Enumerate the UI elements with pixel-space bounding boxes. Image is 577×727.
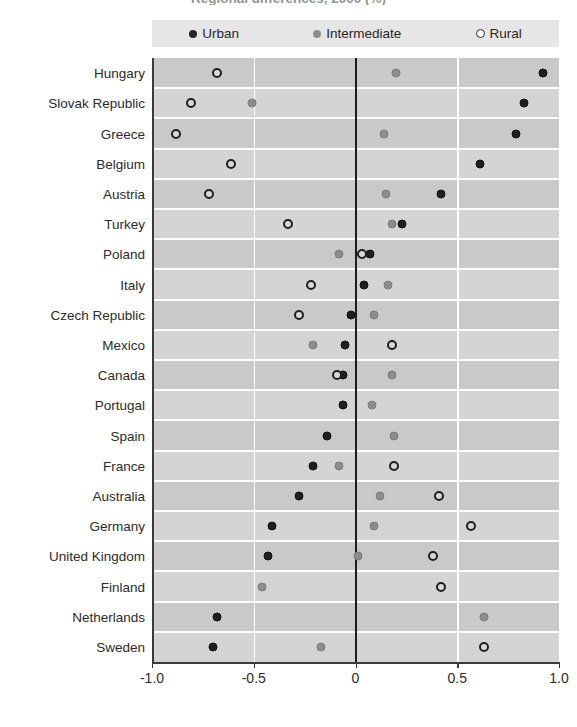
data-point-urban <box>294 491 303 500</box>
y-axis-label-united-kingdom: United Kingdom <box>0 549 145 564</box>
x-axis-tick-mark <box>457 662 458 668</box>
y-axis-label-hungary: Hungary <box>0 66 145 81</box>
data-point-intermediate <box>384 280 393 289</box>
data-point-rural <box>357 249 367 259</box>
y-axis-category-labels: HungarySlovak RepublicGreeceBelgiumAustr… <box>0 58 145 662</box>
data-point-rural <box>226 159 236 169</box>
data-point-rural <box>294 310 304 320</box>
x-axis-tick-label: 0.5 <box>448 670 467 686</box>
data-point-rural <box>332 370 342 380</box>
data-point-rural <box>212 68 222 78</box>
y-axis-label-netherlands: Netherlands <box>0 609 145 624</box>
plot-vertical-gridline <box>254 58 256 662</box>
scatter-plot-area <box>152 58 559 662</box>
data-point-rural <box>306 280 316 290</box>
y-axis-label-spain: Spain <box>0 428 145 443</box>
data-point-urban <box>520 99 529 108</box>
data-point-intermediate <box>335 250 344 259</box>
data-point-rural <box>186 98 196 108</box>
data-point-urban <box>213 612 222 621</box>
y-axis-label-germany: Germany <box>0 519 145 534</box>
y-axis-label-portugal: Portugal <box>0 398 145 413</box>
y-axis-label-czech-republic: Czech Republic <box>0 307 145 322</box>
data-point-rural <box>479 642 489 652</box>
legend-item-urban[interactable]: Urban <box>189 27 239 41</box>
data-point-urban <box>347 310 356 319</box>
data-point-intermediate <box>382 189 391 198</box>
data-point-rural <box>204 189 214 199</box>
x-axis-tick-label: 1.0 <box>549 670 568 686</box>
data-point-urban <box>308 461 317 470</box>
data-point-urban <box>359 280 368 289</box>
chart-legend: Urban Intermediate Rural <box>152 20 559 47</box>
data-point-intermediate <box>375 491 384 500</box>
y-axis-label-poland: Poland <box>0 247 145 262</box>
y-axis-label-belgium: Belgium <box>0 156 145 171</box>
y-axis-label-france: France <box>0 458 145 473</box>
data-point-rural <box>389 461 399 471</box>
data-point-intermediate <box>316 642 325 651</box>
filled-gray-circle-icon <box>313 30 321 38</box>
data-point-urban <box>475 159 484 168</box>
data-point-rural <box>466 521 476 531</box>
x-axis-tick-mark <box>559 662 560 668</box>
y-axis-label-australia: Australia <box>0 488 145 503</box>
x-axis-tick-label: 0 <box>352 670 360 686</box>
data-point-urban <box>209 642 218 651</box>
data-point-urban <box>436 189 445 198</box>
plot-vertical-gridline <box>559 58 561 662</box>
x-axis-tick-mark <box>254 662 255 668</box>
data-point-intermediate <box>369 522 378 531</box>
x-axis-tick-label: -0.5 <box>242 670 266 686</box>
data-point-urban <box>398 220 407 229</box>
data-point-intermediate <box>353 552 362 561</box>
y-axis-line <box>152 58 154 662</box>
data-point-intermediate <box>388 220 397 229</box>
x-axis-tick-label: -1.0 <box>140 670 164 686</box>
data-point-intermediate <box>308 340 317 349</box>
legend-item-rural[interactable]: Rural <box>476 27 522 41</box>
x-axis-tick-mark <box>152 662 153 668</box>
y-axis-label-greece: Greece <box>0 126 145 141</box>
data-point-intermediate <box>257 582 266 591</box>
data-point-urban <box>323 431 332 440</box>
data-point-rural <box>434 491 444 501</box>
data-point-urban <box>538 69 547 78</box>
legend-label-urban: Urban <box>202 27 239 41</box>
data-point-rural <box>171 129 181 139</box>
x-axis-tick-mark <box>356 662 357 668</box>
data-point-rural <box>387 340 397 350</box>
data-point-rural <box>428 551 438 561</box>
data-point-intermediate <box>369 310 378 319</box>
data-point-intermediate <box>390 431 399 440</box>
data-point-intermediate <box>367 401 376 410</box>
y-axis-label-sweden: Sweden <box>0 639 145 654</box>
data-point-intermediate <box>247 99 256 108</box>
data-point-intermediate <box>379 129 388 138</box>
data-point-intermediate <box>479 612 488 621</box>
y-axis-label-turkey: Turkey <box>0 217 145 232</box>
data-point-urban <box>341 340 350 349</box>
data-point-intermediate <box>388 371 397 380</box>
zero-reference-line <box>355 58 357 662</box>
filled-dark-circle-icon <box>189 30 197 38</box>
data-point-rural <box>283 219 293 229</box>
data-point-intermediate <box>392 69 401 78</box>
y-axis-label-mexico: Mexico <box>0 337 145 352</box>
data-point-urban <box>339 401 348 410</box>
y-axis-label-slovak-republic: Slovak Republic <box>0 96 145 111</box>
data-point-urban <box>268 522 277 531</box>
page-title: Regional differences, 2000 (%) <box>0 0 577 5</box>
legend-label-intermediate: Intermediate <box>326 27 401 41</box>
data-point-intermediate <box>335 461 344 470</box>
legend-item-intermediate[interactable]: Intermediate <box>313 27 401 41</box>
y-axis-label-austria: Austria <box>0 186 145 201</box>
y-axis-label-finland: Finland <box>0 579 145 594</box>
plot-vertical-gridline <box>457 58 459 662</box>
y-axis-label-italy: Italy <box>0 277 145 292</box>
data-point-urban <box>512 129 521 138</box>
open-circle-icon <box>476 29 485 38</box>
legend-label-rural: Rural <box>490 27 522 41</box>
y-axis-label-canada: Canada <box>0 368 145 383</box>
data-point-rural <box>436 582 446 592</box>
